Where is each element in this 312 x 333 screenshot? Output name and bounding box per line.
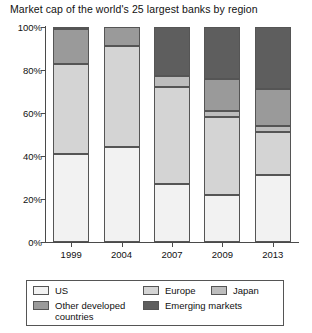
x-axis-tick-label-2013: 2013 xyxy=(262,249,283,260)
x-axis-tick-label-2004: 2004 xyxy=(111,249,132,260)
x-axis-tick-label-2007: 2007 xyxy=(161,249,182,260)
legend-label: Europe xyxy=(165,285,196,296)
legend-swatch-icon xyxy=(143,286,159,295)
y-axis-tick-mark xyxy=(41,156,45,157)
legend-swatch-icon xyxy=(33,286,49,295)
y-axis-tick-mark xyxy=(41,113,45,114)
bar-segment-1999-emerging-markets[interactable] xyxy=(53,27,89,29)
legend-label: Other developed countries xyxy=(55,300,125,322)
bar-segment-2009-emerging-markets[interactable] xyxy=(204,27,240,79)
chart-legend: USEuropeJapanOther developed countriesEm… xyxy=(26,280,284,326)
bar-2004[interactable] xyxy=(104,27,140,242)
y-axis-tick-mark xyxy=(41,199,45,200)
bar-2007[interactable] xyxy=(154,27,190,242)
legend-label: US xyxy=(55,285,68,296)
legend-label: Emerging markets xyxy=(165,300,242,311)
legend-item-emerging-markets[interactable]: Emerging markets xyxy=(143,300,242,311)
bar-segment-2007-japan[interactable] xyxy=(154,76,190,87)
chart-title: Market cap of the world's 25 largest ban… xyxy=(10,3,258,15)
bar-segment-1999-other-developed-countries[interactable] xyxy=(53,29,89,63)
y-axis-tick-label: 20% xyxy=(23,194,42,205)
bar-segment-2013-japan[interactable] xyxy=(255,126,291,132)
bar-segment-2009-europe[interactable] xyxy=(204,117,240,194)
bar-segment-2013-europe[interactable] xyxy=(255,132,291,175)
bar-2009[interactable] xyxy=(204,27,240,242)
bar-1999[interactable] xyxy=(53,27,89,242)
legend-swatch-icon xyxy=(33,301,49,310)
x-axis-tick-mark xyxy=(273,243,274,247)
bar-segment-2007-emerging-markets[interactable] xyxy=(154,27,190,76)
y-axis-tick-label: 40% xyxy=(23,151,42,162)
bar-segment-2007-us[interactable] xyxy=(154,184,190,242)
bar-segment-2013-us[interactable] xyxy=(255,175,291,242)
y-axis-tick-label: 60% xyxy=(23,108,42,119)
y-axis-tick-label: 0% xyxy=(28,237,42,248)
bar-segment-2009-us[interactable] xyxy=(204,195,240,242)
bar-segment-2004-europe[interactable] xyxy=(104,46,140,147)
y-axis-tick-mark xyxy=(41,27,45,28)
bar-segment-1999-us[interactable] xyxy=(53,154,89,242)
legend-item-europe[interactable]: Europe xyxy=(143,285,196,296)
x-axis-tick-label-2009: 2009 xyxy=(212,249,233,260)
x-axis-tick-mark xyxy=(122,243,123,247)
bar-segment-2007-europe[interactable] xyxy=(154,87,190,184)
x-axis-tick-mark xyxy=(71,243,72,247)
y-axis-tick-label: 100% xyxy=(18,22,42,33)
bar-segment-2013-other-developed-countries[interactable] xyxy=(255,89,291,126)
bar-segment-2009-japan[interactable] xyxy=(204,111,240,117)
bar-segment-2013-emerging-markets[interactable] xyxy=(255,27,291,89)
bar-segment-2004-us[interactable] xyxy=(104,147,140,242)
x-axis-tick-mark xyxy=(222,243,223,247)
y-axis-tick-mark xyxy=(41,242,45,243)
x-axis-tick-mark xyxy=(172,243,173,247)
y-axis-tick-mark xyxy=(41,70,45,71)
legend-item-japan[interactable]: Japan xyxy=(211,285,259,296)
legend-swatch-icon xyxy=(211,286,227,295)
y-axis-tick-label: 80% xyxy=(23,65,42,76)
plot-area xyxy=(46,27,298,242)
legend-label: Japan xyxy=(233,285,259,296)
legend-item-other-developed-countries[interactable]: Other developed countries xyxy=(33,300,125,322)
legend-item-us[interactable]: US xyxy=(33,285,68,296)
bar-segment-1999-europe[interactable] xyxy=(53,64,89,154)
legend-swatch-icon xyxy=(143,301,159,310)
bar-segment-2009-other-developed-countries[interactable] xyxy=(204,79,240,111)
bar-segment-2004-other-developed-countries[interactable] xyxy=(104,27,140,46)
bar-2013[interactable] xyxy=(255,27,291,242)
x-axis-tick-label-1999: 1999 xyxy=(61,249,82,260)
